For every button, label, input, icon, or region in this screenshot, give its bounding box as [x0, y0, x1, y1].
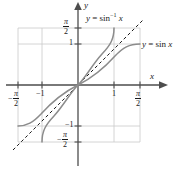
minus-sign: − — [8, 95, 13, 103]
y-axis-label: y — [84, 1, 88, 10]
fraction-pi-over-2: π 2 — [62, 131, 68, 149]
tick-value: 1 — [41, 89, 45, 98]
y-axis-arrow — [74, 2, 82, 10]
figure-container: y x y = sin−1 x y = sin x π 2 1 −1 − π 2 — [0, 0, 191, 171]
curve-label-arcsin: y = sin−1 x — [86, 12, 123, 23]
fraction-pi-over-2: π 2 — [63, 18, 69, 36]
fraction-numerator: π — [63, 18, 69, 27]
minus-sign: − — [57, 136, 62, 144]
tick-label-y-neg-pi-over-2: − π 2 — [57, 131, 68, 149]
arcsin-label-fn: sin — [100, 13, 111, 23]
negative-fraction: − π 2 — [57, 131, 68, 149]
sin-label-arg: x — [168, 39, 172, 49]
x-axis-label: x — [150, 72, 154, 81]
graph-canvas — [0, 0, 191, 171]
negative-fraction: − π 2 — [8, 90, 19, 108]
fraction-denominator: 2 — [62, 140, 68, 149]
fraction-numerator: π — [62, 131, 68, 140]
tick-label-y-neg-1: −1 — [65, 121, 74, 129]
arcsin-label-arg: x — [119, 13, 123, 23]
axes — [6, 9, 160, 166]
tick-value: 1 — [70, 120, 74, 129]
sin-label-eq: = — [148, 39, 153, 49]
fraction-pi-over-2: π 2 — [135, 90, 141, 108]
arcsin-label-lhs: y — [86, 13, 90, 23]
fraction-denominator: 2 — [13, 99, 19, 108]
sin-label-lhs: y — [142, 39, 146, 49]
tick-label-x-pi-over-2: π 2 — [135, 90, 141, 108]
arcsin-label-eq: = — [92, 13, 97, 23]
tick-label-x-neg-pi-over-2: − π 2 — [8, 90, 19, 108]
tick-label-y-pi-over-2: π 2 — [63, 18, 69, 36]
fraction-denominator: 2 — [63, 27, 69, 36]
tick-label-x-1: 1 — [112, 90, 116, 98]
arcsin-label-exponent: −1 — [110, 12, 116, 18]
fraction-numerator: π — [13, 90, 19, 99]
x-axis-arrow — [159, 81, 168, 89]
sin-label-fn: sin — [156, 39, 167, 49]
fraction-denominator: 2 — [135, 99, 141, 108]
tick-label-y-1: 1 — [69, 39, 73, 47]
tick-label-x-neg-1: −1 — [36, 90, 45, 98]
fraction-pi-over-2: π 2 — [13, 90, 19, 108]
fraction-numerator: π — [135, 90, 141, 99]
curve-label-sin: y = sin x — [142, 40, 172, 49]
